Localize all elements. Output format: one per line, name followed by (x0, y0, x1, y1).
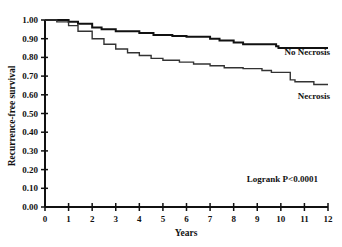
x-tick-label: 4 (137, 214, 142, 224)
y-axis: 0.000.100.200.300.400.500.600.700.800.90… (22, 15, 48, 212)
x-tick-label: 7 (208, 214, 213, 224)
y-tick-label: 0.80 (22, 52, 38, 62)
y-tick-label: 0.50 (22, 109, 38, 119)
x-tick-label: 8 (231, 214, 236, 224)
y-tick-label: 0.20 (22, 165, 38, 175)
x-tick-label: 1 (66, 214, 71, 224)
y-tick-label: 0.40 (22, 127, 38, 137)
y-tick-label: 0.00 (22, 202, 38, 212)
y-tick-label: 0.90 (22, 34, 38, 44)
y-tick-label: 0.30 (22, 146, 38, 156)
necrosis-label: Necrosis (298, 91, 331, 101)
x-tick-label: 11 (300, 214, 309, 224)
y-tick-label: 0.60 (22, 90, 38, 100)
y-tick-label: 0.70 (22, 71, 38, 81)
no-necrosis-label: No Necrosis (284, 47, 330, 57)
x-axis: 0123456789101112 (43, 203, 333, 224)
x-tick-label: 3 (114, 214, 119, 224)
x-tick-label: 5 (161, 214, 166, 224)
no-necrosis-curve (45, 20, 328, 48)
y-tick-label: 1.00 (22, 15, 38, 25)
x-tick-label: 10 (276, 214, 286, 224)
logrank-annotation: Logrank P<0.0001 (247, 174, 319, 184)
x-tick-label: 12 (324, 214, 334, 224)
x-tick-label: 9 (255, 214, 260, 224)
x-axis-title: Years (175, 228, 198, 238)
y-axis-title: Recurrence-free survival (7, 65, 17, 166)
x-tick-label: 6 (184, 214, 189, 224)
x-tick-label: 2 (90, 214, 95, 224)
kaplan-meier-chart: 0.000.100.200.300.400.500.600.700.800.90… (0, 0, 342, 247)
x-tick-label: 0 (43, 214, 48, 224)
y-tick-label: 0.10 (22, 183, 38, 193)
